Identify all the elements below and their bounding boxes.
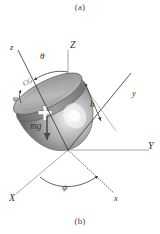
caption-b: (b)	[0, 216, 160, 226]
psi-label: ψ	[62, 182, 68, 192]
axis-X-label: X	[8, 192, 16, 203]
axis-x-line	[68, 150, 114, 193]
spinning-top-diagram: CG Z Y X z y	[0, 0, 160, 234]
figure-container: (a)	[0, 0, 160, 234]
axis-Z-label: Z	[70, 39, 76, 50]
psi-angle	[40, 176, 98, 187]
axis-z-label: z	[9, 42, 14, 52]
weight-label: mg	[30, 121, 42, 131]
height-label: h	[90, 99, 95, 109]
theta-label: θ	[40, 51, 45, 61]
psi-arc	[40, 176, 98, 187]
axis-x-label: x	[113, 193, 118, 203]
phi-label: φ	[13, 93, 18, 103]
axis-X-line	[16, 150, 68, 194]
axis-y-label: y	[131, 88, 136, 98]
axis-Y-label: Y	[148, 140, 155, 151]
